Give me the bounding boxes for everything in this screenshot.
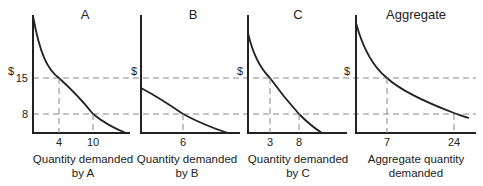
panel-a-x-label-2: by A [72,167,95,179]
panel-a-demand-curve [33,16,126,133]
panel-b-y-axis-label: $ [131,65,137,77]
y-axis-label-dollar: $ [8,65,14,77]
panel-b-x-label-2: by B [175,167,198,179]
panel-c-x-tick-3: 3 [267,136,273,148]
panel-a-x-label-1: Quantity demanded [33,153,133,165]
panel-aggregate-title: Aggregate [386,7,446,22]
panel-b-x-tick-6: 6 [180,136,186,148]
panel-b-x-label-1: Quantity demanded [137,153,237,165]
panel-c-demand-curve [248,33,322,133]
panel-c-axes [248,15,347,133]
panel-aggregate: Aggregate $ 7 24 Aggregate quantity dema… [344,7,476,179]
panel-a-x-tick-4: 4 [56,136,62,148]
panel-a-title: A [81,7,90,22]
panel-c: C $ 3 8 Quantity demanded by C [237,7,348,179]
panel-aggregate-x-tick-7: 7 [384,136,390,148]
y-tick-8: 8 [22,108,28,120]
panel-aggregate-x-label-2: demanded [389,167,443,179]
panel-c-x-label-1: Quantity demanded [248,153,348,165]
panel-c-x-label-2: by C [286,167,310,179]
panel-c-x-tick-8: 8 [296,136,302,148]
demand-charts: A $ 15 8 4 10 Quantity demanded by A B $… [0,0,483,186]
panel-b-title: B [189,7,198,22]
panel-a-axes [33,15,130,133]
panel-c-y-axis-label: $ [237,65,243,77]
panel-aggregate-x-tick-24: 24 [448,136,460,148]
panel-aggregate-y-axis-label: $ [344,65,350,77]
panel-aggregate-demand-curve [356,23,469,118]
panel-b-demand-curve [141,88,228,133]
panel-aggregate-x-label-1: Aggregate quantity [368,153,465,165]
y-tick-15: 15 [16,72,28,84]
panel-b: B $ 6 Quantity demanded by B [131,7,240,179]
panel-a-x-tick-10: 10 [87,136,99,148]
panel-a: A $ 15 8 4 10 Quantity demanded by A [8,7,133,179]
panel-b-axes [141,15,240,133]
panel-c-title: C [293,7,302,22]
